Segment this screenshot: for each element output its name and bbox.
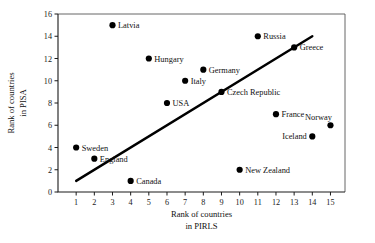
data-point-marker[interactable]	[309, 133, 315, 139]
data-point-marker[interactable]	[237, 167, 243, 173]
y-tick-label: 6	[48, 121, 52, 130]
x-tick-label: 3	[110, 198, 114, 207]
data-point-marker[interactable]	[164, 100, 170, 106]
data-point-label: Russia	[263, 32, 286, 41]
y-tick-label: 12	[44, 55, 52, 64]
data-point-marker[interactable]	[128, 178, 134, 184]
x-tick-label: 11	[254, 198, 262, 207]
data-point-label: Italy	[191, 77, 207, 86]
x-tick-label: 4	[129, 198, 133, 207]
x-tick-label: 15	[326, 198, 334, 207]
data-point-label: Czech Republic	[227, 88, 281, 97]
data-point-marker[interactable]	[291, 44, 297, 50]
data-point-label: Greece	[300, 43, 324, 52]
x-tick-label: 5	[147, 198, 151, 207]
x-tick-label: 7	[183, 198, 187, 207]
x-tick-label: 14	[308, 198, 316, 207]
x-tick-label: 13	[290, 198, 298, 207]
data-point-label: Hungary	[154, 55, 184, 64]
x-tick-label: 8	[201, 198, 205, 207]
data-point-label: Iceland	[282, 132, 307, 141]
data-point-label: England	[100, 155, 129, 164]
x-tick-label: 12	[272, 198, 280, 207]
data-point-label: Canada	[136, 177, 161, 186]
data-point-marker[interactable]	[109, 22, 115, 28]
data-point-label: USA	[172, 99, 189, 108]
data-point-label: Latvia	[118, 21, 140, 30]
x-tick-label: 1	[74, 198, 78, 207]
data-point-label: Germany	[209, 66, 241, 75]
y-tick-label: 16	[44, 10, 52, 19]
data-point-label: Norway	[305, 113, 333, 122]
y-tick-label: 2	[48, 166, 52, 175]
data-point-marker[interactable]	[255, 33, 261, 39]
data-point-marker[interactable]	[273, 111, 279, 117]
y-tick-label: 0	[48, 188, 52, 197]
x-tick-label: 6	[165, 198, 169, 207]
data-point-marker[interactable]	[91, 156, 97, 162]
data-point-marker[interactable]	[73, 144, 79, 150]
y-tick-label: 14	[44, 32, 52, 41]
data-point-marker[interactable]	[146, 55, 152, 61]
y-tick-label: 4	[48, 144, 52, 153]
data-point-label: New Zealand	[245, 166, 291, 175]
data-point-label: France	[281, 110, 304, 119]
y-axis-title-line2: in PISA	[18, 88, 28, 116]
x-tick-label: 2	[92, 198, 96, 207]
data-point-marker[interactable]	[200, 67, 206, 73]
scatter-chart-figure: 0246810121416123456789101112131415Sweden…	[0, 0, 375, 243]
x-tick-label: 10	[236, 198, 244, 207]
y-tick-label: 10	[44, 77, 52, 86]
x-axis-title-line1: Rank of countries	[171, 209, 233, 219]
data-point-marker[interactable]	[182, 78, 188, 84]
y-axis-title-line1: Rank of countries	[6, 72, 16, 134]
data-point-label: Sweden	[82, 144, 109, 153]
y-tick-label: 8	[48, 99, 52, 108]
data-point-marker[interactable]	[327, 122, 333, 128]
x-tick-label: 9	[219, 198, 223, 207]
chart-canvas: 0246810121416123456789101112131415Sweden…	[0, 0, 375, 243]
x-axis-title-line2: in PIRLS	[185, 221, 217, 231]
data-point-marker[interactable]	[218, 89, 224, 95]
